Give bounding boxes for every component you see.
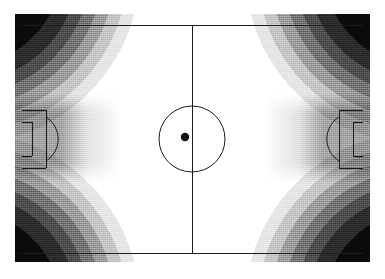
contour-corridor-goal-mouths <box>15 14 370 262</box>
figure-canvas <box>0 0 385 279</box>
heatmap-plot-area <box>15 14 370 262</box>
